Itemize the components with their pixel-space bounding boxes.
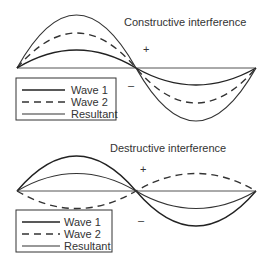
bottom-minus: – [138,214,145,226]
top-minus: – [128,79,135,91]
top-legend-wave1: Wave 1 [71,84,108,96]
bottom-legend-wave2: Wave 2 [64,228,101,240]
destructive-panel: Destructive interference + – Wave 1 Wave… [16,142,256,252]
constructive-panel: Constructive interference + – Wave 1 Wav… [16,15,256,121]
top-legend: Wave 1 Wave 2 Resultant [16,78,117,120]
bottom-legend-wave1: Wave 1 [64,216,101,228]
bottom-legend: Wave 1 Wave 2 Resultant [16,210,112,252]
top-legend-wave2: Wave 2 [71,96,108,108]
top-plus: + [143,43,149,55]
bottom-legend-resultant: Resultant [64,240,110,252]
bottom-plus: + [140,163,146,175]
bottom-title: Destructive interference [110,142,226,154]
top-title: Constructive interference [124,16,246,28]
top-legend-resultant: Resultant [71,108,117,120]
interference-diagram: Constructive interference + – Wave 1 Wav… [0,0,273,268]
